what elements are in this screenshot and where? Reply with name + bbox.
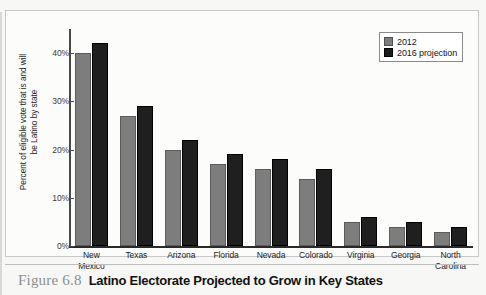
bar-2016 <box>272 159 288 246</box>
x-axis-label: Nevada <box>249 250 294 261</box>
bar-2016 <box>361 217 377 246</box>
plot-area: Percent of eligible vote that is and wil… <box>6 11 480 258</box>
bar-2016 <box>92 43 108 246</box>
x-axis-label: NorthCarolina <box>428 250 473 271</box>
x-axis-label: Virginia <box>338 250 383 261</box>
y-tick-label: 0% <box>35 241 69 251</box>
bar-2012 <box>389 227 405 246</box>
bar-2012 <box>255 169 271 246</box>
figure-number: Figure 6.8 <box>18 272 82 289</box>
figure-caption: Figure 6.8 Latino Electorate Projected t… <box>18 270 478 290</box>
y-tick-label: 30% <box>35 96 69 106</box>
legend-swatch-2016 <box>384 48 393 57</box>
y-tick-mark <box>69 246 74 247</box>
x-axis-label: NewMexico <box>69 250 114 271</box>
bar-2016 <box>182 140 198 246</box>
y-tick-label: 10% <box>35 193 69 203</box>
bar-group <box>75 29 108 246</box>
chart-frame: Percent of eligible vote that is and wil… <box>5 10 479 257</box>
y-tick-label: 40% <box>35 48 69 58</box>
y-tick-label-wrap: 40% <box>28 48 69 58</box>
y-tick-label-wrap: 20% <box>28 145 69 155</box>
page-left-rule <box>0 12 2 295</box>
figure-title: Latino Electorate Projected to Grow in K… <box>89 273 383 288</box>
bar-2012 <box>75 53 91 246</box>
caption-divider <box>5 264 479 265</box>
bar-2016 <box>451 227 467 246</box>
legend-label-2012: 2012 <box>397 37 417 47</box>
bar-2016 <box>137 106 153 246</box>
y-tick-label-wrap: 30% <box>28 96 69 106</box>
bar-group <box>255 29 288 246</box>
legend-swatch-2012 <box>384 37 393 46</box>
bar-2012 <box>299 179 315 247</box>
bar-2016 <box>227 154 243 246</box>
x-axis-label: Georgia <box>383 250 428 261</box>
y-axis-title-line1: Percent of eligible vote that is and wil… <box>18 54 28 190</box>
x-axis-line <box>69 246 473 248</box>
x-axis-label: Texas <box>114 250 159 261</box>
bar-2012 <box>210 164 226 246</box>
y-tick-label-wrap: 0% <box>28 241 69 251</box>
legend-item-2016: 2016 projection <box>384 47 457 58</box>
bar-2012 <box>120 116 136 246</box>
legend: 2012 2016 projection <box>379 32 463 62</box>
bar-2016 <box>406 222 422 246</box>
y-tick-label-wrap: 10% <box>28 193 69 203</box>
x-axis-label: Colorado <box>293 250 338 261</box>
bar-2016 <box>316 169 332 246</box>
bar-2012 <box>165 150 181 246</box>
y-tick-label: 20% <box>35 145 69 155</box>
legend-label-2016: 2016 projection <box>397 48 457 58</box>
x-axis-label: Florida <box>204 250 249 261</box>
bar-group <box>165 29 198 246</box>
bar-group <box>299 29 332 246</box>
legend-item-2012: 2012 <box>384 36 457 47</box>
bar-group <box>344 29 377 246</box>
bar-group <box>210 29 243 246</box>
figure-root: Percent of eligible vote that is and wil… <box>0 0 486 295</box>
bar-2012 <box>344 222 360 246</box>
bar-group <box>120 29 153 246</box>
x-axis-label: Arizona <box>159 250 204 261</box>
bar-2012 <box>434 232 450 246</box>
